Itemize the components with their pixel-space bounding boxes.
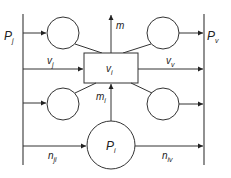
vi-box [84, 53, 138, 83]
top-left-node [47, 17, 79, 49]
bottom-left-node [47, 88, 79, 120]
link-bottom-left-to-box [75, 83, 96, 93]
label-niv: niv [162, 150, 173, 163]
label-vv: vv [166, 55, 175, 68]
label-vj: vj [47, 55, 54, 69]
link-box-to-bottom-right [131, 83, 152, 93]
link-box-to-top-right [123, 44, 151, 53]
label-Pj: Pj [4, 29, 14, 45]
label-nji: nji [48, 150, 57, 164]
label-Pv: Pv [207, 29, 219, 44]
top-right-node [147, 17, 179, 49]
label-mi: mi [96, 91, 106, 104]
link-top-left-to-box [75, 44, 102, 53]
flow-diagram: Pj Pv m vj vv vi mi Pi nji niv [0, 0, 231, 178]
label-m: m [116, 20, 124, 31]
